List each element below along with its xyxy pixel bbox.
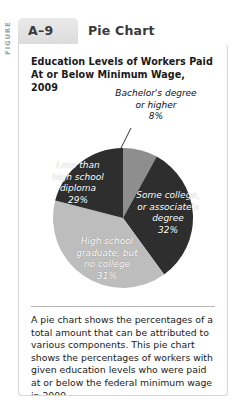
figure-caption: A pie chart shows the percentages of a t… [31, 314, 217, 396]
pie-label-less-than-hs: Less than high school diploma 29% [41, 160, 115, 206]
pie-chart: Less than high school diploma 29% Some c… [19, 126, 227, 302]
pie-label-hs-graduate: High school graduate, but no college 31% [65, 236, 149, 282]
pie-label-less-than-hs-line-3: diploma [41, 183, 115, 195]
figure-page: FIGURE A–9 Pie Chart Education Levels of… [0, 0, 234, 410]
caption-divider [31, 306, 215, 307]
pie-label-some-college-line-3: degree [129, 213, 207, 225]
pie-label-some-college-line-1: Some college, [129, 190, 207, 202]
figure-word-label: FIGURE [4, 16, 12, 60]
figure-number: A–9 [28, 23, 54, 38]
bachelors-callout: Bachelor's degree or higher 8% [97, 88, 215, 123]
bachelors-leader-line [121, 128, 131, 148]
pie-label-some-college-line-2: or associate's [129, 202, 207, 214]
chart-title-line-1: Education Levels of Workers Paid [31, 55, 215, 68]
pie-label-hs-graduate-line-1: High school [65, 236, 149, 248]
bachelors-callout-line-2: or higher [97, 100, 215, 112]
figure-header: FIGURE A–9 Pie Chart [0, 18, 234, 44]
pie-label-hs-graduate-line-2: graduate, but [65, 248, 149, 260]
bachelors-callout-value: 8% [97, 111, 215, 123]
figure-card: Education Levels of Workers Paid At or B… [18, 44, 228, 396]
pie-label-some-college-value: 32% [129, 225, 207, 237]
pie-label-hs-graduate-value: 31% [65, 271, 149, 283]
pie-label-less-than-hs-line-2: high school [41, 172, 115, 184]
figure-title: Pie Chart [88, 23, 155, 38]
pie-label-less-than-hs-value: 29% [41, 195, 115, 207]
bachelors-callout-line-1: Bachelor's degree [97, 88, 215, 100]
pie-label-some-college: Some college, or associate's degree 32% [129, 190, 207, 236]
pie-label-less-than-hs-line-1: Less than [41, 160, 115, 172]
pie-label-hs-graduate-line-3: no college [65, 259, 149, 271]
